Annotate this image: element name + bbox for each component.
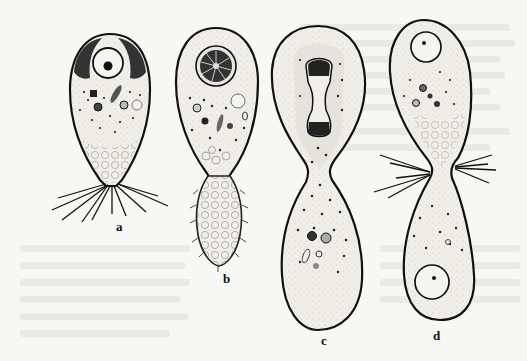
- panel-label-d: d: [433, 328, 440, 344]
- panel-label-c: c: [321, 333, 327, 349]
- panel-label-b: b: [223, 271, 230, 287]
- nucleus-b: [196, 46, 236, 86]
- panel-label-a: a: [116, 219, 123, 235]
- cilia-tuft-a: [52, 184, 168, 222]
- cell-d: [374, 20, 496, 320]
- cell-c: [272, 26, 365, 330]
- cell-b: [176, 28, 258, 272]
- nucleus-d-top: [411, 32, 441, 62]
- cilia-right-d: [455, 155, 496, 183]
- protozoan-division-figure: [0, 0, 527, 361]
- cell-a: [52, 34, 168, 222]
- nucleus-d-bottom: [415, 265, 449, 299]
